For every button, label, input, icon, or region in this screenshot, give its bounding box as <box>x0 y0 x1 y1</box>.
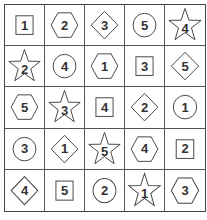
cell-number: 4 <box>181 21 188 36</box>
cell-number: 2 <box>181 141 188 156</box>
grid-cell[interactable]: 2 <box>85 170 125 211</box>
cell-number: 1 <box>101 59 108 74</box>
cell-number: 2 <box>21 62 28 77</box>
grid-cell[interactable]: 5 <box>165 46 205 87</box>
cell-number: 5 <box>181 59 188 74</box>
cell-number: 4 <box>61 59 68 74</box>
puzzle-grid: 1235424135534213154245213 <box>4 4 206 212</box>
cell-number: 5 <box>101 144 108 159</box>
cell-number: 4 <box>21 183 28 198</box>
cell-number: 4 <box>101 100 108 115</box>
grid-cell[interactable]: 4 <box>45 46 85 87</box>
grid-cell[interactable]: 4 <box>125 129 165 170</box>
grid-cell[interactable]: 3 <box>5 129 45 170</box>
grid-cell[interactable]: 5 <box>125 5 165 46</box>
cell-number: 4 <box>141 141 148 156</box>
grid-cell[interactable]: 4 <box>5 170 45 211</box>
cell-number: 5 <box>61 183 68 198</box>
cell-number: 3 <box>101 18 108 33</box>
grid-cell[interactable]: 3 <box>165 170 205 211</box>
cell-number: 3 <box>61 103 68 118</box>
cell-number: 1 <box>21 18 28 33</box>
cell-number: 1 <box>141 186 148 201</box>
cell-number: 3 <box>181 183 188 198</box>
cell-number: 2 <box>101 183 108 198</box>
cell-number: 1 <box>181 100 188 115</box>
cell-number: 5 <box>21 100 28 115</box>
cell-number: 2 <box>141 100 148 115</box>
grid-cell[interactable]: 5 <box>85 129 125 170</box>
grid-cell[interactable]: 1 <box>165 87 205 128</box>
grid-cell[interactable]: 3 <box>45 87 85 128</box>
grid-cell[interactable]: 3 <box>125 46 165 87</box>
cell-number: 3 <box>141 59 148 74</box>
grid-cell[interactable]: 1 <box>45 129 85 170</box>
grid-cell[interactable]: 2 <box>5 46 45 87</box>
cell-number: 3 <box>21 141 28 156</box>
cell-number: 5 <box>141 18 148 33</box>
grid-cell[interactable]: 2 <box>125 87 165 128</box>
grid-cell[interactable]: 3 <box>85 5 125 46</box>
cell-number: 2 <box>61 18 68 33</box>
cell-number: 1 <box>61 141 68 156</box>
grid-cell[interactable]: 4 <box>165 5 205 46</box>
grid-cell[interactable]: 1 <box>5 5 45 46</box>
grid-cell[interactable]: 1 <box>85 46 125 87</box>
grid-cell[interactable]: 5 <box>45 170 85 211</box>
grid-cell[interactable]: 1 <box>125 170 165 211</box>
grid-cell[interactable]: 2 <box>45 5 85 46</box>
grid-cell[interactable]: 2 <box>165 129 205 170</box>
grid-cell[interactable]: 4 <box>85 87 125 128</box>
grid-cell[interactable]: 5 <box>5 87 45 128</box>
